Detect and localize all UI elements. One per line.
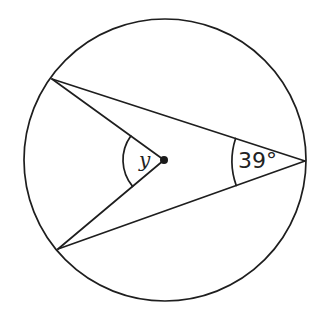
circumference-angle-label: 39° xyxy=(238,148,277,173)
circle-theorem-diagram: y 39° xyxy=(0,0,324,310)
center-angle-label: y xyxy=(138,148,151,172)
radius-lower xyxy=(58,160,164,249)
center-point xyxy=(160,156,168,164)
center-angle-arc xyxy=(123,136,133,186)
circumference-angle-arc xyxy=(232,138,236,185)
chord-lower xyxy=(58,161,305,249)
